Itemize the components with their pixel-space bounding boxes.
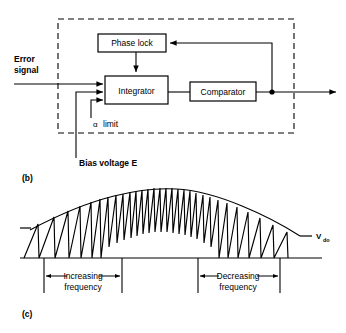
panel-b-caption: (b) [22,173,33,183]
vdo-label-sub: do [323,237,330,243]
wire-bias-voltage [76,92,103,158]
decreasing-frequency-label-line2: frequency [219,282,257,292]
wire-alpha-limit [91,100,103,118]
panel-c: V do Increasing frequency Decreasing fre… [20,188,330,319]
panel-b: Phase lock Integrator Comparator [14,19,336,183]
figure-page: Phase lock Integrator Comparator [0,0,346,333]
block-integrator[interactable]: Integrator [105,76,168,104]
decreasing-frequency-label-line1: Decreasing [217,271,260,281]
alpha-limit-label: limit [103,119,119,129]
error-signal-label-line2: signal [14,65,39,75]
sawtooth-waveform [24,188,288,258]
bias-voltage-label: Bias voltage E [79,158,137,168]
block-phase-lock-label: Phase lock [111,38,153,48]
figure-svg: Phase lock Integrator Comparator [0,0,346,333]
block-comparator-label: Comparator [201,87,246,97]
increasing-frequency-label-line2: frequency [64,282,102,292]
block-integrator-label: Integrator [118,86,155,96]
panel-c-caption: (c) [22,309,33,319]
alpha-symbol: α [93,120,98,129]
block-comparator[interactable]: Comparator [190,82,256,101]
increasing-frequency-label-line1: Increasing [63,271,102,281]
block-phase-lock[interactable]: Phase lock [98,34,166,52]
error-signal-label-line1: Error [14,54,35,64]
dashed-boundary [58,19,294,133]
vdo-label-base: V [316,232,322,241]
